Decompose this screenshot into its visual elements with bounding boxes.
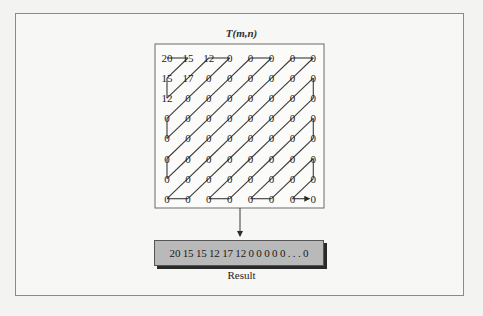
matrix-cell: 0: [290, 132, 296, 144]
matrix-cell: 15: [162, 72, 174, 84]
matrix-cell: 0: [290, 173, 296, 185]
matrix-cell: 0: [206, 193, 212, 205]
matrix-cell: 0: [290, 112, 296, 124]
matrix-cell: 0: [185, 112, 191, 124]
matrix-cell: 0: [248, 72, 254, 84]
matrix-cell: 0: [185, 193, 191, 205]
matrix-cell: 0: [227, 193, 233, 205]
result-sequence-box: 20 15 15 12 17 12 0 0 0 0 0 . . . 0: [154, 240, 324, 266]
matrix-cell: 0: [248, 92, 254, 104]
matrix-cell: 20: [162, 52, 174, 64]
matrix-cell: 0: [185, 173, 191, 185]
matrix-cell: 0: [248, 193, 254, 205]
matrix-cell: 0: [164, 173, 170, 185]
matrix-cell: 0: [206, 153, 212, 165]
matrix-cell: 0: [311, 153, 317, 165]
matrix-cell: 0: [269, 193, 275, 205]
matrix-cell: 0: [164, 193, 170, 205]
matrix-cell: 0: [185, 92, 191, 104]
matrix-cell: 0: [311, 193, 317, 205]
matrix-cell: 0: [248, 52, 254, 64]
matrix-cell: 0: [206, 112, 212, 124]
matrix-cell: 0: [164, 153, 170, 165]
matrix-cell: 0: [248, 112, 254, 124]
matrix-cell: 0: [206, 132, 212, 144]
matrix-cell: 0: [227, 92, 233, 104]
matrix-cell: 0: [269, 153, 275, 165]
matrix-cell: 0: [269, 52, 275, 64]
matrix-cell: 0: [227, 173, 233, 185]
matrix-cell: 0: [185, 132, 191, 144]
matrix-cell: 0: [227, 153, 233, 165]
matrix-cell: 0: [269, 112, 275, 124]
matrix-cell: 0: [227, 132, 233, 144]
matrix-cell: 0: [227, 52, 233, 64]
matrix-cell: 0: [311, 52, 317, 64]
result-sequence: 20 15 15 12 17 12 0 0 0 0 0 . . . 0: [170, 247, 309, 259]
matrix-cell: 0: [311, 112, 317, 124]
matrix-cell: 0: [248, 132, 254, 144]
result-label: Result: [0, 269, 483, 281]
matrix-cell: 0: [290, 92, 296, 104]
matrix-cell: 0: [269, 72, 275, 84]
matrix-cell: 0: [227, 72, 233, 84]
matrix-cell: 0: [311, 72, 317, 84]
matrix-cell: 12: [162, 92, 173, 104]
matrix-cell: 0: [206, 72, 212, 84]
matrix-cell: 0: [311, 132, 317, 144]
matrix-cell: 0: [290, 52, 296, 64]
matrix-cell: 0: [290, 193, 296, 205]
matrix-cell: 0: [227, 112, 233, 124]
matrix-cell: 0: [248, 153, 254, 165]
matrix-cell: 0: [164, 132, 170, 144]
matrix-cell: 0: [290, 72, 296, 84]
matrix-cell: 0: [206, 173, 212, 185]
matrix-cell: 15: [182, 52, 194, 64]
matrix-cell: 0: [269, 173, 275, 185]
matrix-cell: 0: [311, 92, 317, 104]
matrix-cell: 12: [203, 52, 214, 64]
matrix-cell: 0: [269, 92, 275, 104]
matrix-cell: 0: [185, 153, 191, 165]
matrix-cell: 0: [269, 132, 275, 144]
matrix-cell: 17: [182, 72, 194, 84]
matrix-cell: 0: [248, 173, 254, 185]
matrix-cell: 0: [164, 112, 170, 124]
matrix-cell: 0: [290, 153, 296, 165]
matrix-cell: 0: [206, 92, 212, 104]
matrix-cell: 0: [311, 173, 317, 185]
